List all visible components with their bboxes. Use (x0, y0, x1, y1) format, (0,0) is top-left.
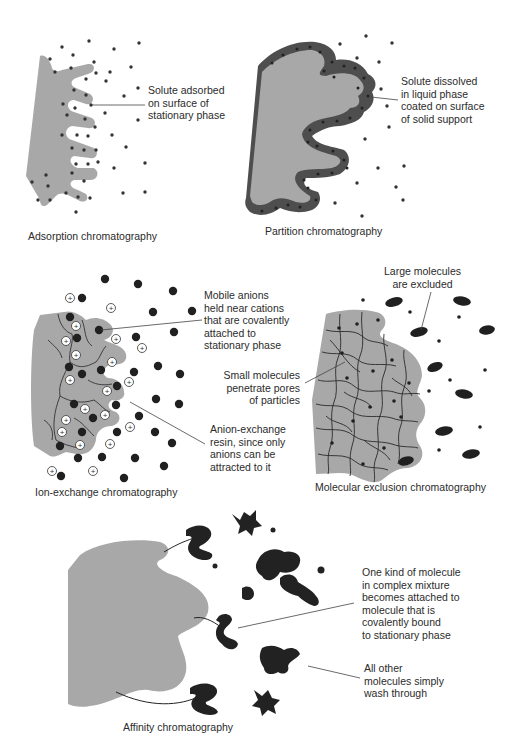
svg-text:+: + (105, 387, 110, 396)
ion-exchange-caption: Ion-exchange chromatography (35, 486, 177, 498)
svg-text:+: + (103, 411, 108, 420)
exclusion-caption: Molecular exclusion chromatography (315, 481, 486, 493)
exclusion-leader-top (421, 292, 431, 330)
ion-exchange-leader-bottom (130, 402, 205, 444)
svg-text:+: + (109, 304, 114, 313)
svg-text:+: + (50, 467, 55, 476)
svg-text:+: + (114, 335, 119, 344)
adsorption-illustration (26, 39, 147, 213)
affinity-caption: Affinity chromatography (123, 721, 233, 733)
affinity-bound-molecule-top (186, 526, 212, 561)
affinity-free-molecule-blob-2 (242, 586, 254, 600)
svg-text:+: + (91, 467, 96, 476)
exclusion-annotation-top: Large molecules are excluded (384, 265, 461, 290)
affinity-bound-molecule-bottom (190, 684, 218, 716)
ion-exchange-leader-top (101, 320, 202, 330)
adsorption-caption: Adsorption chromatography (28, 230, 157, 242)
ion-exchange-resin (31, 311, 126, 456)
partition-caption: Partition chromatography (265, 225, 382, 237)
exclusion-annotation-left: Small molecules penetrate pores of parti… (220, 369, 300, 407)
affinity-illustration (68, 510, 360, 716)
affinity-leader-top (238, 603, 354, 628)
svg-text:+: + (140, 344, 145, 353)
svg-text:+: + (74, 351, 79, 360)
affinity-free-molecule-star-bottom (252, 690, 280, 716)
affinity-leader-bottom (308, 666, 360, 678)
affinity-free-molecule-star-top (232, 510, 262, 536)
affinity-annotation-bottom: All other molecules simply wash through (364, 662, 444, 700)
ion-exchange-annotation-top: Mobile anions held near cations that are… (204, 289, 289, 352)
partition-annotation: Solute dissolved in liquid phase coated … (401, 75, 484, 125)
svg-text:+: + (74, 322, 79, 331)
affinity-bound-molecule-middle (216, 614, 238, 649)
affinity-stationary-phase (68, 540, 209, 707)
affinity-free-molecule-chain (280, 575, 319, 606)
svg-text:+: + (83, 405, 88, 414)
svg-text:+: + (127, 378, 132, 387)
molecular-exclusion-illustration (305, 292, 496, 482)
svg-text:+: + (68, 376, 73, 385)
svg-text:+: + (64, 416, 69, 425)
partition-illustration (245, 34, 405, 217)
partition-leader-line (371, 97, 398, 100)
ion-exchange-illustration: + + + + + + + + + + + + + + + + + + + + (31, 275, 205, 482)
adsorption-annotation: Solute adsorbed on surface of stationary… (148, 84, 225, 122)
affinity-free-molecule-star-mid (260, 646, 300, 674)
svg-text:+: + (64, 337, 69, 346)
affinity-free-molecule-blob-1 (256, 549, 300, 580)
svg-text:+: + (110, 358, 115, 367)
svg-text:+: + (60, 428, 65, 437)
svg-text:+: + (68, 294, 73, 303)
affinity-annotation-top: One kind of molecule in complex mixture … (362, 566, 461, 641)
svg-text:+: + (78, 441, 83, 450)
svg-text:+: + (128, 423, 133, 432)
ion-exchange-annotation-bottom: Anion-exchange resin, since only anions … (210, 423, 286, 473)
svg-text:+: + (108, 440, 113, 449)
